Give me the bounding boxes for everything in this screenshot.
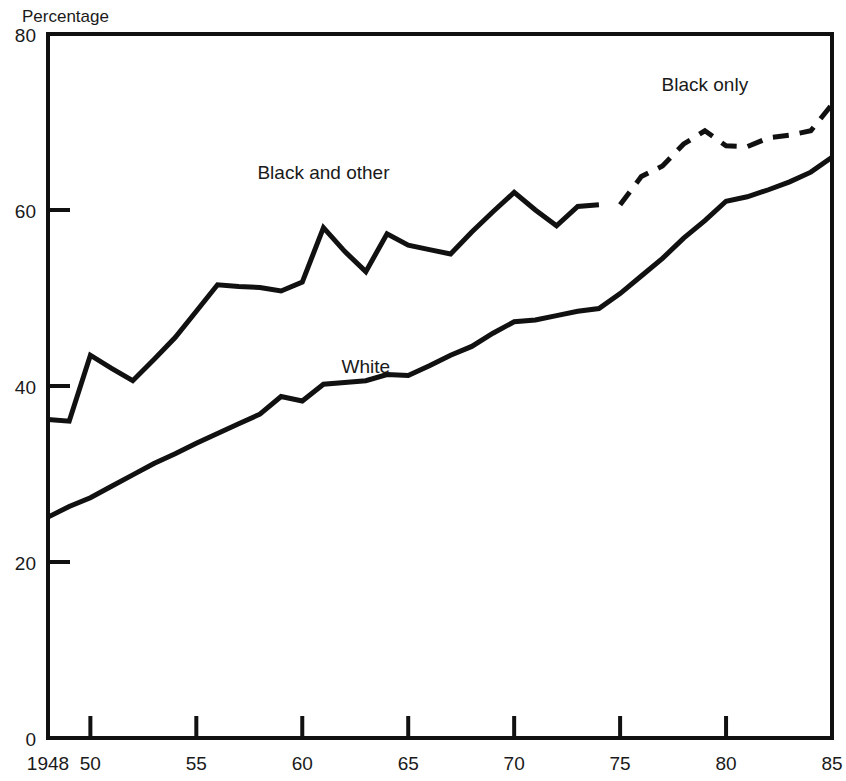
axis-frame <box>48 34 832 738</box>
series-annotation: White <box>342 356 391 377</box>
y-axis-title: Percentage <box>22 7 109 26</box>
data-series-group <box>48 104 832 517</box>
y-tick-label: 60 <box>15 201 36 222</box>
x-tick-label: 65 <box>398 753 419 774</box>
y-tick-label: 20 <box>15 553 36 574</box>
y-tick-label: 0 <box>25 729 36 750</box>
x-tick-label: 85 <box>821 753 842 774</box>
x-tick-label: 80 <box>715 753 736 774</box>
x-tick-label: 55 <box>186 753 207 774</box>
x-tick-label: 75 <box>610 753 631 774</box>
series-line-black-only <box>620 104 832 204</box>
line-chart: 020406080 19485055606570758085 Percentag… <box>0 0 846 781</box>
x-tick-label: 50 <box>80 753 101 774</box>
y-tick-label: 40 <box>15 377 36 398</box>
series-annotations: Black and otherWhiteBlack only <box>257 74 748 377</box>
plot-frame <box>48 34 832 738</box>
series-annotation: Black only <box>662 74 749 95</box>
x-tick-label: 1948 <box>27 753 69 774</box>
chart-container: 020406080 19485055606570758085 Percentag… <box>0 0 846 781</box>
series-line-white <box>48 157 832 517</box>
x-axis-ticks <box>90 716 726 738</box>
y-tick-label: 80 <box>15 25 36 46</box>
x-tick-label: 70 <box>504 753 525 774</box>
x-tick-label: 60 <box>292 753 313 774</box>
series-annotation: Black and other <box>257 162 390 183</box>
x-axis-tick-labels: 19485055606570758085 <box>27 753 843 774</box>
y-axis-ticks <box>48 34 70 562</box>
y-axis-tick-labels: 020406080 <box>15 25 36 750</box>
